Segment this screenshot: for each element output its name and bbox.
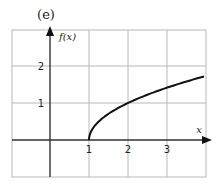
x-axis-arrow-icon [202,136,212,144]
tick-labels: 12312 [38,61,171,155]
y-axis-arrow-icon [46,26,54,36]
x-tick-label: 2 [125,144,131,155]
x-axis-label: x [196,124,202,135]
curve-f-of-x [89,76,204,140]
y-axis-label: f(x) [58,31,76,42]
plot-area [89,76,204,140]
y-tick-label: 1 [38,98,44,109]
x-tick-label: 3 [164,144,170,155]
y-tick-label: 2 [38,61,44,72]
panel-label: (e) [37,7,55,22]
x-tick-label: 1 [86,144,92,155]
chart: (e) 12312 f(x) x [0,0,217,183]
